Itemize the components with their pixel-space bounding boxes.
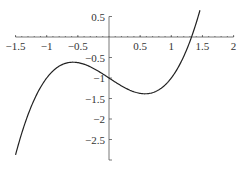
- y-tick-label: −2.5: [85, 134, 105, 146]
- x-tick-label: 1.5: [196, 40, 210, 52]
- x-tick-label: −1.5: [6, 40, 26, 52]
- y-tick-label: −2: [93, 113, 105, 125]
- function-plot: −1.5−1−0.50.511.520.5−0.5−1−1.5−2−2.5: [0, 0, 245, 181]
- x-tick-label: −0.5: [68, 40, 88, 52]
- x-tick-label: 2: [231, 40, 237, 52]
- y-tick-label: −0.5: [85, 52, 105, 64]
- tick-labels: −1.5−1−0.50.511.520.5−0.5−1−1.5−2−2.5: [6, 11, 237, 146]
- x-tick-label: −1: [41, 40, 53, 52]
- y-tick-label: −1.5: [85, 93, 105, 105]
- y-tick-label: 0.5: [91, 11, 105, 23]
- x-tick-label: 1: [169, 40, 175, 52]
- curve-line: [16, 10, 200, 155]
- x-tick-label: 0.5: [133, 40, 147, 52]
